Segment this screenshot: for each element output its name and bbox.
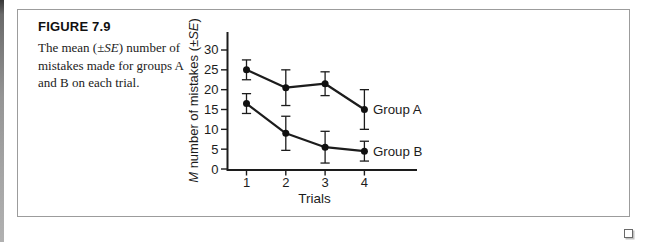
svg-text:M number of mistakes (±SE): M number of mistakes (±SE) [186,18,201,183]
y-tick-label: 25 [204,62,218,77]
y-tick-label: 30 [204,42,218,57]
data-point [361,148,368,155]
series-line-group-a [247,70,365,110]
series-label-group-b: Group B [373,144,423,159]
data-point [243,66,250,73]
x-tick-label: 4 [361,175,368,190]
series-group-a: Group A [242,60,422,129]
y-tick-label: 10 [204,122,218,137]
x-axis-title: Trials [298,191,331,206]
y-tick-label: 20 [204,82,218,97]
x-tick-label: 3 [321,175,328,190]
x-tick-label: 2 [282,175,289,190]
data-point [322,144,329,151]
data-point [282,84,289,91]
y-axis-title: M number of mistakes (±SE) [186,18,201,183]
data-point [243,100,250,107]
line-chart: 0510152025301234TrialsM number of mistak… [0,0,655,242]
textbook-figure-page: FIGURE 7.9 The mean (±SE) number ofmista… [0,0,655,242]
end-of-figure-marker [624,229,633,238]
y-tick-label: 15 [204,102,218,117]
series-label-group-a: Group A [373,102,422,117]
data-point [361,106,368,113]
data-point [322,80,329,87]
y-tick-label: 0 [211,162,218,177]
data-point [282,130,289,137]
y-tick-label: 5 [211,142,218,157]
error-bars-group-a [242,60,369,129]
series-line-group-b [247,104,365,152]
x-tick-label: 1 [243,175,250,190]
error-bars-group-b [242,94,369,163]
axis-ticks [221,50,364,176]
